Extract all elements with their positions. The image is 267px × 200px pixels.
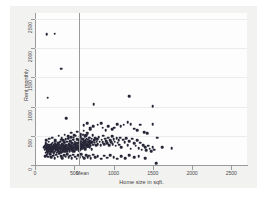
scatter-point [145, 149, 148, 152]
scatter-point [137, 155, 140, 158]
scatter-point [116, 157, 119, 160]
y-tick-label: 500 [27, 139, 33, 147]
scatter-point [136, 129, 139, 132]
x-tick-label: 2000 [186, 170, 197, 176]
scatter-point [92, 125, 95, 128]
y-axis-line [35, 13, 36, 166]
scatter-point [66, 137, 69, 140]
scatter-point [60, 67, 63, 70]
scatter-point [151, 123, 154, 126]
scatter-point [85, 134, 88, 137]
scatter-point [82, 137, 85, 140]
scatter-point [114, 144, 117, 147]
mean-vline [79, 13, 80, 165]
scatter-point [97, 123, 100, 126]
y-tick-label-wrap: 500 [10, 136, 30, 137]
x-tick-label: 1500 [147, 170, 158, 176]
scatter-point [54, 140, 57, 143]
scatter-point [107, 125, 110, 128]
scatter-point [51, 136, 54, 139]
scatter-point [75, 147, 78, 150]
y-axis-title: Rent monthly [23, 55, 29, 115]
scatter-point [59, 151, 62, 154]
chart-canvas: 05001000150020002500 0500100015002000250… [10, 6, 257, 188]
y-tick-label-wrap: 2500 [10, 19, 30, 20]
scatter-point [47, 140, 50, 143]
mean-label: Mean [76, 170, 89, 176]
y-tick-label: 2500 [27, 22, 33, 33]
scatter-point [99, 144, 102, 147]
scatter-point [53, 32, 56, 35]
y-tick-label: 0 [27, 168, 33, 171]
scatter-point [124, 157, 127, 160]
scatter-point [62, 148, 65, 151]
y-tick-label-wrap: 2000 [10, 48, 30, 49]
x-axis-title: Home size in sqft. [35, 179, 248, 185]
scatter-point [45, 33, 48, 36]
scatter-point [82, 124, 85, 127]
scatter-point [126, 144, 129, 147]
scatter-point [84, 149, 87, 152]
scatter-point [71, 150, 74, 153]
scatter-point [97, 136, 100, 139]
scatter-point [51, 143, 54, 146]
scatter-point [63, 141, 66, 144]
scatter-point [125, 137, 128, 140]
scatter-point [156, 136, 159, 139]
scatter-point [128, 95, 131, 98]
scatter-point [129, 147, 132, 150]
scatter-point [153, 149, 156, 152]
scatter-point [139, 141, 142, 144]
scatter-point [76, 139, 79, 142]
scatter-point [144, 157, 147, 160]
scatter-point [106, 156, 109, 159]
scatter-point [89, 157, 92, 160]
scatter-point [140, 149, 143, 152]
scatter-point [155, 162, 158, 165]
scatter-point [46, 96, 49, 99]
scatter-point [60, 139, 63, 142]
scatter-point [88, 136, 91, 139]
scatter-point [57, 134, 60, 137]
x-tick-label: 2500 [226, 170, 237, 176]
scatter-point [139, 123, 142, 126]
gridline [35, 77, 247, 78]
scatter-point [87, 146, 90, 149]
scatter-point [97, 155, 100, 158]
scatter-point [146, 132, 149, 135]
scatter-point [123, 141, 126, 144]
scatter-point [70, 132, 73, 135]
scatter-point [104, 129, 107, 132]
scatter-point [69, 140, 72, 143]
scatter-point [120, 155, 123, 158]
scatter-point [82, 129, 85, 132]
scatter-point [161, 146, 164, 149]
scatter-point [134, 144, 137, 147]
scatter-point [129, 123, 132, 126]
scatter-point [89, 128, 92, 131]
gridline [35, 48, 247, 49]
scatter-point [73, 136, 76, 139]
chart-page: 05001000150020002500 0500100015002000250… [0, 0, 267, 200]
scatter-point [53, 151, 56, 154]
gridline [35, 19, 247, 20]
scatter-point [128, 154, 131, 157]
x-tick-label: 0 [34, 170, 37, 176]
scatter-point [116, 123, 119, 126]
scatter-point [100, 122, 103, 125]
scatter-point [100, 157, 103, 160]
scatter-point [122, 123, 125, 126]
scatter-point [86, 122, 89, 125]
scatter-point [108, 144, 111, 147]
scatter-point [65, 150, 68, 153]
x-tick-label: 1000 [108, 170, 119, 176]
scatter-point [49, 149, 52, 152]
scatter-point [113, 126, 116, 129]
scatter-point [119, 125, 122, 128]
scatter-point [151, 105, 154, 108]
scatter-point [101, 126, 104, 129]
scatter-point [133, 156, 136, 159]
scatter-point [65, 117, 68, 120]
scatter-point [81, 146, 84, 149]
scatter-point [117, 139, 120, 142]
